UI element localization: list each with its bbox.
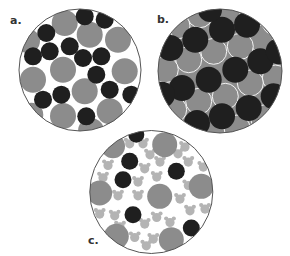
- dark-particle: [87, 66, 105, 84]
- dark-particle: [37, 24, 55, 42]
- panel-label-c: c.: [88, 235, 99, 246]
- dark-particle: [222, 57, 248, 83]
- dark-particle: [125, 206, 142, 223]
- dark-particle: [182, 27, 208, 53]
- dark-particle: [149, 82, 175, 108]
- gray-particle: [112, 58, 138, 84]
- gray-particle: [97, 98, 123, 124]
- gray-particle: [147, 184, 172, 209]
- dark-particle: [41, 42, 59, 60]
- dark-particle: [184, 110, 210, 136]
- gray-particle: [189, 174, 214, 199]
- dark-particle: [122, 86, 140, 104]
- figure-canvas: a. b. c.: [0, 0, 290, 256]
- dark-particle: [115, 171, 132, 188]
- dark-particle: [121, 153, 138, 170]
- dark-particle: [183, 220, 200, 237]
- dark-particle: [157, 35, 183, 61]
- dark-particle: [196, 67, 222, 93]
- panel-a: [16, 7, 141, 144]
- dark-particle: [34, 91, 52, 109]
- gray-particle: [20, 67, 46, 93]
- dark-particle: [101, 81, 119, 99]
- gray-particle: [104, 224, 129, 249]
- gray-particle: [50, 57, 76, 83]
- dark-particle: [52, 86, 70, 104]
- dark-particle: [92, 47, 110, 65]
- dark-particle: [168, 163, 185, 180]
- gray-particle: [262, 9, 288, 35]
- panel-label-a: a.: [10, 15, 22, 26]
- gray-particle: [152, 132, 177, 157]
- dark-particle: [128, 127, 144, 143]
- dark-particle: [96, 11, 114, 29]
- circle-packing-diagram: [0, 0, 290, 256]
- panel-label-b: b.: [157, 14, 169, 25]
- dark-particle: [261, 83, 287, 109]
- dark-particle: [24, 47, 42, 65]
- dark-particle: [77, 107, 95, 125]
- dark-particle: [236, 95, 262, 121]
- dark-particle: [209, 103, 235, 129]
- gray-particle: [159, 227, 184, 252]
- dark-particle: [74, 49, 92, 67]
